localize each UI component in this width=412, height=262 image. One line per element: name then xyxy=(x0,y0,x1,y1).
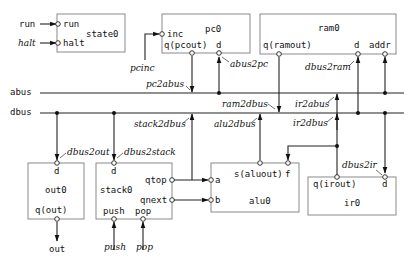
out0-d-port-icon xyxy=(55,161,60,166)
pc0-inc-port-icon xyxy=(160,32,165,37)
stack0-qtop-port-icon xyxy=(170,178,175,183)
pc0-label: pc0 xyxy=(205,24,221,34)
ram2dbus-label: ram2dbus xyxy=(222,99,268,109)
out0-block: d out0 q(out) xyxy=(28,161,84,222)
alu0-b-port-icon xyxy=(209,198,214,203)
pc0-d-port-icon xyxy=(217,51,222,56)
dbus2ram-label: dbus2ram xyxy=(305,62,351,72)
abus2pc-label: abus2pc xyxy=(230,59,268,69)
stack0-port-d: d xyxy=(111,166,116,176)
ext-push-label: push xyxy=(104,242,126,252)
state0-block: state0 run halt run halt xyxy=(18,14,125,52)
pc2abus-label: pc2abus xyxy=(146,79,184,89)
stack0-port-pop: pop xyxy=(135,206,151,216)
stack0-pop-port-icon xyxy=(141,217,146,222)
dbus-junction-out xyxy=(55,111,59,115)
alu0-port-b: b xyxy=(215,195,220,205)
ram0-addr-port-icon xyxy=(383,52,388,57)
pc0-port-d: d xyxy=(216,40,221,50)
dbus-junction-stack xyxy=(112,111,116,115)
ram2dbus-leader xyxy=(268,104,275,109)
ram0-block: ram0 q(ramout) d addr xyxy=(260,14,396,56)
ram0-d-port-icon xyxy=(356,52,361,57)
dbus-junction-ir xyxy=(383,111,387,115)
ir0-port-q: q(irout) xyxy=(313,179,356,189)
stack0-port-qnext: qnext xyxy=(140,195,167,205)
stack0-qnext-port-icon xyxy=(170,198,175,203)
dbus-label: dbus xyxy=(10,107,32,117)
alu0-port-f: f xyxy=(285,169,290,179)
abus2pc-leader xyxy=(222,57,229,62)
alu0-s-port-icon xyxy=(258,161,263,166)
alu0-label: alu0 xyxy=(249,196,271,206)
datapath-diagram: state0 run halt run halt pc0 inc q(pcout… xyxy=(0,0,412,262)
pc0-q-port-icon xyxy=(190,51,195,56)
dbus-junction-ram xyxy=(356,111,360,115)
ir2dbus-label: ir2dbus xyxy=(293,118,328,128)
alu0-port-a: a xyxy=(215,175,220,185)
stack0-block: d qtop qnext stack0 push pop xyxy=(96,161,174,222)
pc2abus-leader xyxy=(186,86,190,90)
ir2dbus-leader xyxy=(327,117,333,122)
ir0-label: ir0 xyxy=(344,198,360,208)
state0-run-port-icon xyxy=(56,22,61,27)
out0-q-port-icon xyxy=(55,217,60,222)
dbus2ir-leader xyxy=(376,170,382,175)
ir2alu-f-wire xyxy=(288,146,337,160)
ext-halt-label: halt xyxy=(18,38,36,48)
ext-pcinc-label: pcinc xyxy=(130,63,155,73)
stack0-label: stack0 xyxy=(100,185,133,195)
ram0-label: ram0 xyxy=(318,23,340,33)
ram0-q-port-icon xyxy=(277,52,282,57)
ram0-port-q: q(ramout) xyxy=(263,40,312,50)
ext-pop-label: pop xyxy=(136,242,153,252)
pc0-port-inc: inc xyxy=(167,29,183,39)
stack0-push-port-icon xyxy=(112,217,117,222)
pcinc-wire xyxy=(145,34,159,60)
state0-halt-port-icon xyxy=(56,41,61,46)
stack0-port-push: push xyxy=(103,206,125,216)
alu0-port-s: s(aluout) xyxy=(234,169,283,179)
stack0-port-qtop: qtop xyxy=(145,175,167,185)
abus-junction-pc xyxy=(217,91,221,95)
stack0-d-port-icon xyxy=(112,161,117,166)
stack2dbus-label: stack2dbus xyxy=(134,119,186,129)
alu0-a-port-icon xyxy=(209,178,214,183)
abus-label: abus xyxy=(10,87,32,97)
ir0-port-d: d xyxy=(382,179,387,189)
state0-label: state0 xyxy=(86,29,119,39)
abus-junction-addr xyxy=(383,91,387,95)
alu2dbus-label: alu2dbus xyxy=(214,119,256,129)
dbus2stack-leader xyxy=(117,153,123,158)
alu0-f-port-icon xyxy=(286,161,291,166)
dbus2stack-label: dbus2stack xyxy=(124,147,176,157)
alu0-block: s(aluout) f a b alu0 xyxy=(209,161,299,212)
out0-port-q: q(out) xyxy=(35,205,68,215)
ir0-block: q(irout) d ir0 xyxy=(308,175,396,215)
ram0-port-addr: addr xyxy=(369,40,391,50)
out0-label: out0 xyxy=(45,185,67,195)
dbus2out-label: dbus2out xyxy=(67,147,110,157)
state0-port-halt: halt xyxy=(63,38,85,48)
ir2abus-label: ir2abus xyxy=(295,99,330,109)
bus-lines: abus dbus xyxy=(10,87,404,117)
dbus2out-leader xyxy=(60,153,66,158)
ext-run-label: run xyxy=(19,19,35,29)
ram0-port-d: d xyxy=(354,40,359,50)
out0-port-d: d xyxy=(54,166,59,176)
dbus2ir-label: dbus2ir xyxy=(342,160,378,170)
pc0-port-q: q(pcout) xyxy=(164,40,207,50)
state0-port-run: run xyxy=(63,19,79,29)
ext-out-label: out xyxy=(49,244,65,254)
